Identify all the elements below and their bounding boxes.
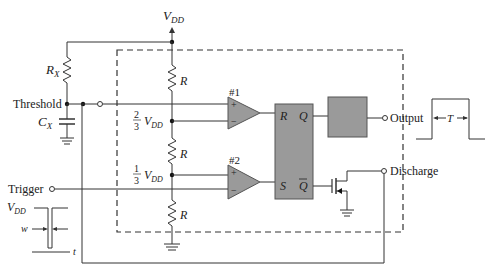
trigger-pulse-waveform: VDD t w [7, 200, 76, 257]
output-buffer: Output [328, 97, 424, 137]
svg-text:Threshold: Threshold [13, 97, 62, 111]
svg-text:T: T [447, 112, 454, 124]
svg-text:VDD: VDD [144, 114, 163, 130]
threshold-node: Threshold [13, 97, 228, 111]
voltage-divider: R 2 3 VDD R 1 3 VDD R [133, 42, 228, 250]
comparator-1: #1 + − [228, 86, 275, 129]
trigger-input: Trigger [8, 182, 228, 196]
svg-text:VDD: VDD [163, 8, 184, 25]
svg-text:2: 2 [134, 109, 139, 120]
svg-text:Output: Output [390, 111, 424, 125]
svg-text:1: 1 [134, 163, 139, 174]
svg-text:t: t [73, 246, 76, 257]
svg-text:R: R [179, 208, 188, 222]
output-pulse-waveform: T [416, 99, 485, 139]
svg-text:S: S [280, 179, 286, 193]
svg-text:w: w [21, 223, 28, 234]
svg-text:VDD: VDD [144, 168, 163, 184]
svg-text:3: 3 [134, 175, 139, 186]
threshold-pin [98, 102, 103, 107]
vdd-supply: VDD [67, 8, 184, 44]
comparator-2: #2 + − [228, 154, 275, 199]
svg-text:−: − [231, 116, 237, 127]
svg-text:Discharge: Discharge [390, 164, 438, 178]
svg-text:R: R [179, 74, 188, 88]
svg-text:R: R [179, 147, 188, 161]
svg-text:+: + [231, 99, 237, 110]
output-pin [383, 116, 388, 121]
trigger-pin [50, 187, 55, 192]
svg-text:VDD: VDD [7, 200, 26, 216]
svg-text:Trigger: Trigger [8, 182, 44, 196]
svg-text:3: 3 [134, 121, 139, 132]
svg-text:Q: Q [299, 109, 308, 123]
svg-text:CX: CX [38, 114, 53, 131]
flip-flop: R Q S Q [275, 104, 328, 199]
svg-text:#1: #1 [229, 86, 240, 98]
circuit-diagram: VDD RX Threshold CX R 2 [0, 0, 490, 271]
discharge-transistor: Discharge [313, 164, 438, 216]
discharge-pin [382, 169, 387, 174]
svg-text:+: + [231, 167, 237, 178]
svg-text:R: R [279, 109, 288, 123]
svg-text:−: − [231, 185, 237, 196]
svg-text:RX: RX [45, 62, 60, 79]
svg-text:Q: Q [299, 179, 308, 193]
ic-boundary [117, 50, 403, 232]
resistor-rx: RX [45, 42, 71, 104]
svg-text:#2: #2 [229, 154, 240, 166]
